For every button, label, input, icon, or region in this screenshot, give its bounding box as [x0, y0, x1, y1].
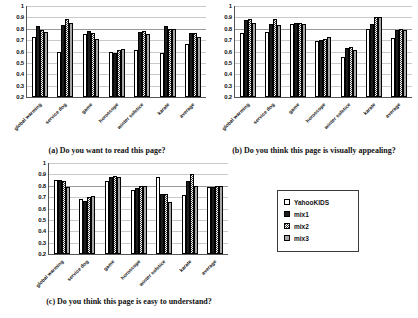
chart-panel-c: 10.90.80.70.60.50.40.30.2 global warming… [26, 163, 232, 315]
legend-label: YahooKIDS [294, 199, 329, 206]
x-tick-mark [53, 97, 54, 98]
bar-group [27, 6, 53, 97]
bar-group [104, 6, 130, 97]
y-tick-mark [26, 97, 27, 98]
bar [277, 25, 281, 97]
x-axis-labels-c: global warmingservice doggamehoroscopewi… [26, 257, 232, 301]
bar-groups [49, 163, 228, 254]
y-tick-label: 0.9 [38, 171, 46, 177]
legend-label: mix1 [294, 211, 309, 218]
bar-group [180, 6, 206, 97]
y-tick-label: 0.9 [224, 14, 232, 20]
bar-group [336, 6, 361, 97]
plot-area-a [26, 6, 206, 98]
bar-group [129, 6, 155, 97]
bar [252, 23, 256, 97]
bar [353, 50, 357, 97]
bar [302, 24, 306, 97]
bar [117, 177, 121, 254]
legend-swatch-icon [284, 199, 290, 205]
y-tick-label: 0.6 [224, 49, 232, 55]
bar-group [311, 6, 336, 97]
y-tick-label: 0.4 [224, 71, 232, 77]
bar-group [53, 6, 79, 97]
y-tick-label: 0.6 [16, 49, 24, 55]
y-tick-label: 0.6 [38, 206, 46, 212]
bar [91, 196, 95, 254]
y-tick-label: 0.5 [16, 60, 24, 66]
x-tick-mark [311, 97, 312, 98]
legend-item: YahooKIDS [284, 196, 352, 208]
bar-group [151, 163, 177, 254]
y-tick-label: 0.3 [224, 83, 232, 89]
bar [327, 37, 331, 97]
x-tick-mark [151, 254, 152, 255]
bar-group [155, 6, 181, 97]
bar-group [235, 6, 260, 97]
bar-group [202, 163, 228, 254]
x-axis-labels-b: global warmingservice doggamehoroscopewi… [212, 100, 416, 144]
bar [219, 186, 223, 254]
y-tick-label: 0.5 [38, 217, 46, 223]
bar [378, 17, 382, 97]
y-tick-mark [234, 97, 235, 98]
x-tick-mark [336, 97, 337, 98]
bar-group [286, 6, 311, 97]
x-tick-mark [104, 97, 105, 98]
x-tick-mark [286, 97, 287, 98]
y-axis-a: 10.90.80.70.60.50.40.30.2 [4, 6, 26, 98]
x-tick-mark [100, 254, 101, 255]
x-tick-mark [387, 97, 388, 98]
plot-area-c [48, 163, 228, 255]
plot-area-b [234, 6, 412, 98]
y-tick-label: 1 [21, 3, 24, 9]
y-tick-label: 1 [43, 160, 46, 166]
bar [172, 29, 176, 97]
bar [168, 202, 172, 254]
bar-group [75, 163, 101, 254]
x-tick-mark [202, 254, 203, 255]
bar [69, 23, 73, 97]
caption-c: (c) Do you think this page is easy to un… [26, 297, 232, 306]
y-tick-label: 0.8 [16, 26, 24, 32]
x-tick-mark [129, 97, 130, 98]
bar [44, 32, 48, 97]
x-tick-mark [75, 254, 76, 255]
bar-group [49, 163, 75, 254]
bar [66, 187, 70, 254]
legend-item: mix2 [284, 220, 352, 232]
chart-panel-a: 10.90.80.70.60.50.40.30.2 global warming… [4, 6, 210, 158]
y-tick-label: 0.4 [16, 71, 24, 77]
x-tick-mark [155, 97, 156, 98]
legend-label: mix3 [294, 235, 309, 242]
legend-item: mix3 [284, 232, 352, 244]
y-tick-label: 0.8 [38, 183, 46, 189]
bar-group [177, 163, 203, 254]
x-tick-mark [177, 254, 178, 255]
bar-group [100, 163, 126, 254]
y-tick-label: 0.4 [38, 228, 46, 234]
caption-a: (a) Do you want to read this page? [4, 146, 210, 155]
bar-group [78, 6, 104, 97]
bar [197, 37, 201, 97]
bar [95, 39, 99, 97]
legend-swatch-icon [284, 223, 290, 229]
bar [121, 49, 125, 97]
bar [403, 30, 407, 97]
bar [194, 186, 198, 254]
y-tick-label: 0.5 [224, 60, 232, 66]
y-tick-label: 0.7 [224, 37, 232, 43]
bar-group [260, 6, 285, 97]
y-tick-mark [48, 254, 49, 255]
y-axis-c: 10.90.80.70.60.50.40.30.2 [26, 163, 48, 255]
legend-label: mix2 [294, 223, 309, 230]
legend: YahooKIDSmix1mix2mix3 [277, 190, 359, 252]
bar [146, 34, 150, 97]
bar-group [361, 6, 386, 97]
legend-swatch-icon [284, 211, 290, 217]
y-tick-label: 0.7 [16, 37, 24, 43]
x-axis-labels-a: global warmingservice doggamehoroscopewi… [4, 100, 210, 144]
y-tick-label: 0.9 [16, 14, 24, 20]
x-tick-mark [78, 97, 79, 98]
bar-group [126, 163, 152, 254]
